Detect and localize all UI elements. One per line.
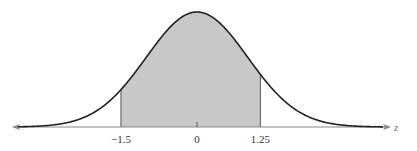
tick-label: 0 — [194, 133, 200, 145]
tick-label: 1.25 — [251, 133, 271, 145]
tick-label: −1.5 — [111, 133, 131, 145]
axis-variable-label: z — [393, 121, 399, 133]
normal-distribution-chart: −1.501.25 z — [0, 0, 417, 151]
shaded-area — [121, 12, 260, 127]
